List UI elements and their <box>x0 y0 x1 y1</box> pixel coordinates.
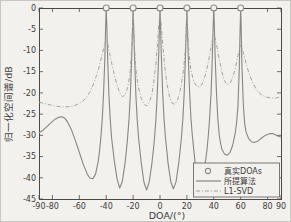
legend-label-l1svd: L1-SVD <box>224 187 253 196</box>
x-tick-label: -40 <box>100 202 113 211</box>
y-tick-label: -5 <box>28 25 36 34</box>
x-tick-label: 90 <box>276 202 286 211</box>
x-tick-label: 60 <box>236 202 246 211</box>
true-doa-marker <box>238 5 244 11</box>
chart-canvas: -90-80-60-40-20020406080900-5-10-15-20-2… <box>1 1 291 222</box>
x-axis-label: DOA/(°) <box>149 210 186 221</box>
y-tick-label: -35 <box>23 152 36 161</box>
x-tick-label: 40 <box>209 202 219 211</box>
x-tick-label: 80 <box>262 202 272 211</box>
y-tick-label: -25 <box>23 110 36 119</box>
x-tick-label: -60 <box>73 202 86 211</box>
x-tick-label: -20 <box>127 202 140 211</box>
y-tick-label: 0 <box>31 4 36 13</box>
true-doa-marker <box>103 5 109 11</box>
y-tick-label: -45 <box>23 195 36 204</box>
x-tick-label: -80 <box>46 202 59 211</box>
doa-spectrum-figure: -90-80-60-40-20020406080900-5-10-15-20-2… <box>0 0 291 222</box>
true-doa-marker <box>184 5 190 11</box>
y-tick-label: -15 <box>23 67 36 76</box>
legend: 真实DOAs 所提算法 L1-SVD <box>194 163 280 197</box>
y-tick-label: -40 <box>23 174 36 183</box>
true-doa-marker <box>211 5 217 11</box>
y-tick-label: -10 <box>23 46 36 55</box>
true-doa-marker <box>157 5 163 11</box>
y-axis-label: 归一化空间谱/dB <box>3 66 14 142</box>
y-tick-label: -20 <box>23 89 36 98</box>
true-doa-marker <box>130 5 136 11</box>
y-tick-label: -30 <box>23 131 36 140</box>
legend-label-true-doas: 真实DOAs <box>224 166 262 176</box>
legend-label-proposed: 所提算法 <box>224 176 256 186</box>
